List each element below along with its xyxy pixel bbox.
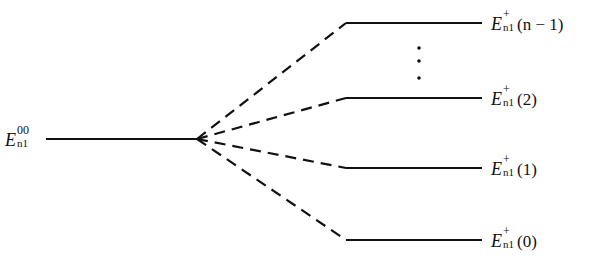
energy-symbol: E — [491, 231, 502, 251]
superscript: + — [503, 225, 510, 237]
level-argument: (1) — [517, 160, 537, 179]
dash-to-level-2 — [197, 98, 346, 139]
subscript: n1 — [17, 138, 28, 149]
subscript: n1 — [503, 239, 514, 250]
energy-level-diagram — [0, 0, 598, 261]
splitting-dashes — [197, 23, 346, 240]
split-levels — [346, 23, 482, 240]
energy-symbol: E — [491, 14, 502, 34]
level-argument: (2) — [517, 90, 537, 109]
unsplit-level-label: E00n1 — [5, 131, 30, 149]
subscript: n1 — [503, 167, 514, 178]
subscript: n1 — [503, 22, 514, 33]
vertical-ellipsis — [417, 46, 421, 80]
level-0-label: E+n1(0) — [491, 232, 537, 250]
level-n-1-label: E+n1(n − 1) — [491, 15, 563, 33]
level-argument: (0) — [517, 232, 537, 251]
level-argument: (n − 1) — [517, 15, 563, 34]
energy-symbol: E — [491, 89, 502, 109]
subscript: n1 — [503, 97, 514, 108]
energy-symbol: E — [491, 159, 502, 179]
superscript: 00 — [17, 124, 29, 136]
level-2-label: E+n1(2) — [491, 90, 537, 108]
superscript: + — [503, 83, 510, 95]
level-1-label: E+n1(1) — [491, 160, 537, 178]
superscript: + — [503, 8, 510, 20]
superscript: + — [503, 153, 510, 165]
dash-to-level-n-1 — [197, 23, 346, 139]
energy-symbol: E — [5, 130, 16, 150]
